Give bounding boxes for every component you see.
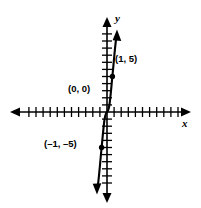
coordinate-plane-figure: (1, 5) (0, 0) (–1, –5) y x: [0, 0, 201, 208]
curve-arrow-up: [113, 30, 122, 41]
x-axis-arrow-left: [10, 108, 20, 117]
y-axis-arrow-up: [103, 17, 112, 27]
y-axis: [103, 17, 112, 203]
y-axis-arrow-down: [103, 193, 112, 203]
point-label-origin: (0, 0): [68, 84, 90, 94]
curve-arrow-down: [93, 183, 102, 194]
x-axis-label: x: [182, 117, 188, 129]
point-marker-1-5: [110, 74, 115, 79]
y-axis-label: y: [115, 12, 120, 24]
graph-canvas: [0, 0, 201, 208]
x-axis-arrow-right: [181, 108, 191, 117]
point-marker-neg1-neg5: [99, 145, 104, 150]
point-label-neg1-neg5: (–1, –5): [44, 139, 77, 149]
point-label-1-5: (1, 5): [115, 54, 137, 64]
